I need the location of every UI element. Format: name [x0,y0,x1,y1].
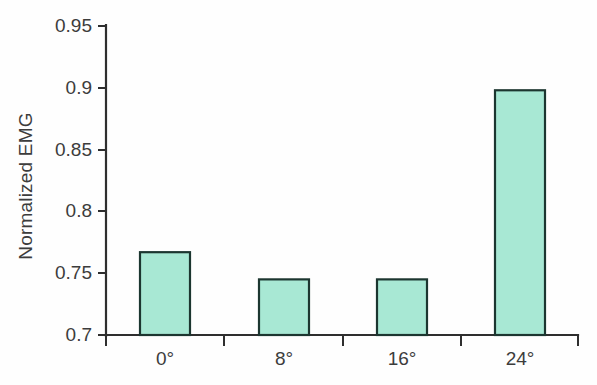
plot-area [0,0,597,385]
emg-bar-chart: Normalized EMG 0.95 0.9 0.85 0.8 0.75 0.… [0,0,597,385]
bar-8deg [259,279,309,335]
x-axis-ticks [106,335,578,346]
bar-24deg [495,90,545,335]
bars-group [140,90,545,335]
bar-0deg [140,252,190,335]
bar-16deg [377,279,427,335]
y-axis-ticks [98,26,106,335]
